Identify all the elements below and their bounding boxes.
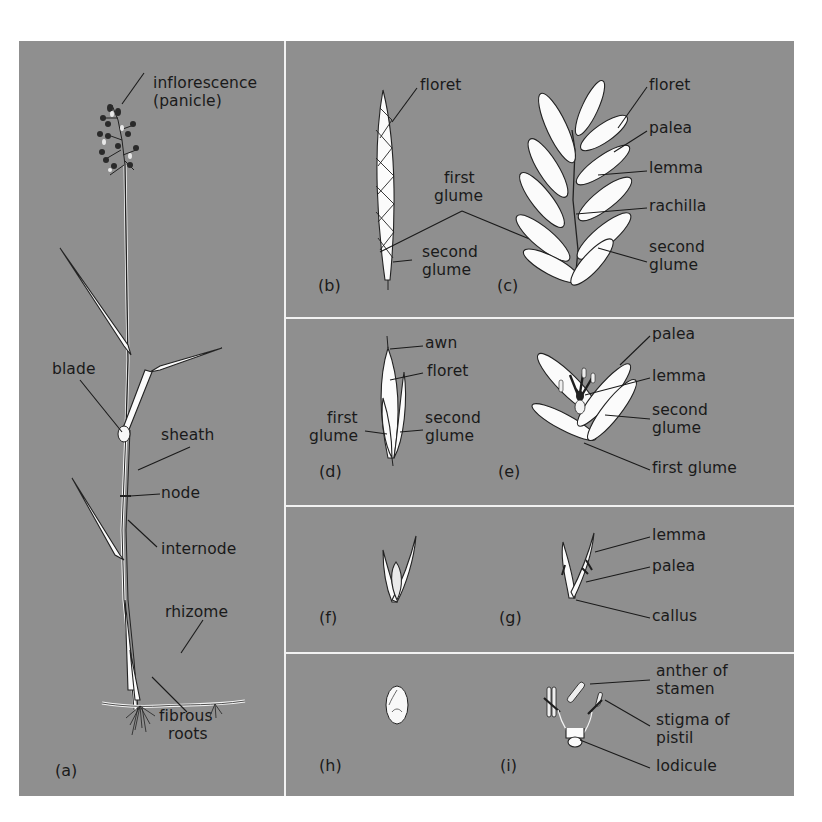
label-c-rachilla: rachilla — [649, 198, 706, 215]
label-e-palea: palea — [652, 326, 695, 343]
label-i-pistil: pistil — [656, 730, 694, 747]
label-g-callus: callus — [652, 608, 697, 625]
spikelet-e-illustration — [528, 336, 650, 470]
label-e-second: second — [652, 402, 708, 419]
grain-h-illustration — [386, 686, 408, 724]
label-i-stamen: stamen — [656, 681, 715, 698]
label-c-lemma: lemma — [649, 160, 703, 177]
floret-f-illustration — [383, 536, 416, 602]
panel-id-g: (g) — [499, 608, 522, 627]
label-d-glume: glume — [309, 428, 358, 445]
flower-i-illustration — [544, 680, 650, 768]
label-inflorescence: inflorescence — [153, 75, 257, 92]
label-e-first-glume: first glume — [652, 460, 737, 477]
label-i-lodicule: lodicule — [656, 758, 717, 775]
label-b-floret: floret — [420, 77, 462, 94]
label-sheath: sheath — [161, 427, 214, 444]
label-rhizome: rhizome — [165, 604, 228, 621]
label-internode: internode — [161, 541, 236, 558]
panel-id-i: (i) — [500, 756, 517, 775]
label-blade: blade — [52, 361, 96, 378]
label-b-first: first — [444, 170, 475, 187]
label-d-glume2: glume — [425, 428, 474, 445]
panel-id-a: (a) — [55, 761, 77, 780]
label-d-second: second — [425, 410, 481, 427]
label-g-lemma: lemma — [652, 527, 706, 544]
floret-g-illustration — [562, 533, 650, 618]
label-b-second: second — [422, 244, 478, 261]
label-d-floret: floret — [427, 363, 469, 380]
label-node: node — [161, 485, 200, 502]
label-c-glume: glume — [649, 257, 698, 274]
panel-id-f: (f) — [319, 608, 337, 627]
label-roots: roots — [168, 726, 208, 743]
panel-id-d: (d) — [319, 462, 342, 481]
spikelet-d-illustration — [365, 336, 423, 466]
label-d-awn: awn — [425, 335, 457, 352]
panel-id-c: (c) — [497, 276, 518, 295]
label-i-stigma-of: stigma of — [656, 712, 730, 729]
panel-id-b: (b) — [318, 276, 341, 295]
label-i-anther-of: anther of — [656, 663, 728, 680]
label-fibrous: fibrous — [159, 708, 213, 725]
label-c-floret: floret — [649, 77, 691, 94]
label-c-second: second — [649, 239, 705, 256]
label-e-glume: glume — [652, 420, 701, 437]
panicle-icon — [97, 104, 139, 175]
spikelet-c-illustration — [511, 77, 647, 290]
label-panicle: (panicle) — [153, 93, 222, 110]
label-b-glume: glume — [434, 188, 483, 205]
label-c-palea: palea — [649, 120, 692, 137]
label-g-palea: palea — [652, 558, 695, 575]
panel-id-e: (e) — [498, 462, 520, 481]
label-e-lemma: lemma — [652, 368, 706, 385]
label-d-first: first — [327, 410, 358, 427]
label-b-glume2: glume — [422, 262, 471, 279]
panel-id-h: (h) — [319, 756, 342, 775]
grass-plant-illustration — [60, 73, 245, 735]
